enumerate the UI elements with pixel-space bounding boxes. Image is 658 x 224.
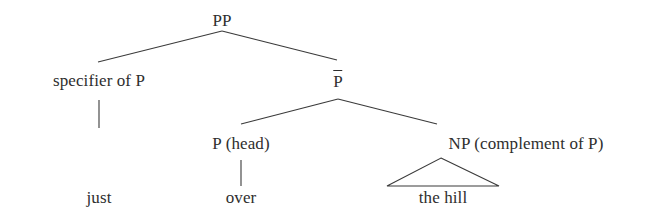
node-p-bar: P (333, 70, 342, 90)
edge-pbar-to-head (241, 99, 338, 124)
edge-pp-to-pbar (222, 31, 337, 60)
terminal-the-hill: the hill (419, 189, 468, 206)
p-bar-overbar-icon (333, 70, 342, 71)
edge-pp-to-specifier (98, 31, 222, 62)
edge-pbar-to-complement (338, 99, 437, 124)
node-np-complement: NP (complement of P) (449, 135, 604, 152)
p-bar-letter: P (333, 73, 342, 90)
terminal-just: just (87, 189, 112, 206)
terminal-over: over (226, 189, 257, 206)
np-abbreviation-triangle-icon (387, 158, 499, 186)
node-specifier-of-p: specifier of P (53, 72, 145, 89)
node-p-head: P (head) (212, 135, 269, 152)
node-pp-root: PP (212, 12, 231, 29)
